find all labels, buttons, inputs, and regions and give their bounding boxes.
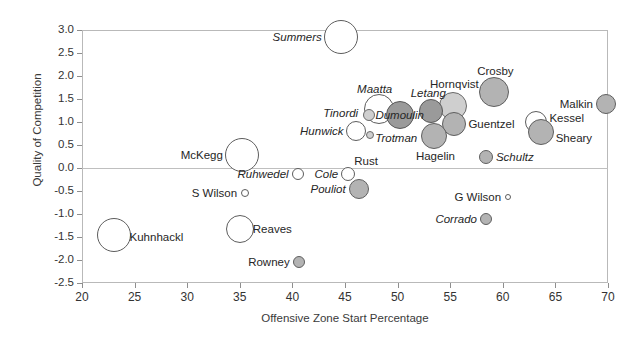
x-tick-mark xyxy=(82,283,83,288)
data-point-label: Reaves xyxy=(253,223,292,235)
y-tick-mark xyxy=(77,53,82,54)
x-tick-label: 70 xyxy=(601,290,614,304)
data-point-label: Schultz xyxy=(496,151,534,163)
plot-frame-right xyxy=(607,30,608,283)
data-point-bubble[interactable] xyxy=(366,131,374,139)
data-point-label: Sheary xyxy=(556,132,592,144)
data-point-bubble[interactable] xyxy=(528,119,554,145)
data-point-bubble[interactable] xyxy=(596,94,616,114)
y-tick-label: -1.5 xyxy=(34,230,74,242)
data-point-bubble[interactable] xyxy=(349,179,369,199)
data-point-label: McKegg xyxy=(181,149,223,161)
data-point-label: Trotman xyxy=(375,132,417,144)
x-tick-label: 40 xyxy=(286,290,299,304)
x-tick-label: 20 xyxy=(75,290,88,304)
data-point-bubble[interactable] xyxy=(346,121,366,141)
x-tick-mark xyxy=(450,283,451,288)
data-point-bubble[interactable] xyxy=(480,213,492,225)
x-tick-mark xyxy=(398,283,399,288)
x-axis-label: Offensive Zone Start Percentage xyxy=(82,312,608,324)
data-point-bubble[interactable] xyxy=(421,123,447,149)
scatter-chart: Quality of Competition Offensive Zone St… xyxy=(0,0,626,345)
data-point-label: Kessel xyxy=(549,112,584,124)
x-tick-label: 65 xyxy=(549,290,562,304)
y-tick-label: -2.0 xyxy=(34,253,74,265)
x-tick-mark xyxy=(345,283,346,288)
data-point-label: Hunwick xyxy=(300,125,343,137)
y-tick-label: 0.0 xyxy=(34,161,74,173)
data-point-bubble[interactable] xyxy=(363,109,375,121)
data-point-label: G Wilson xyxy=(454,191,501,203)
data-point-label: Dumoulin xyxy=(375,109,424,121)
data-point-label: Cole xyxy=(314,168,338,180)
x-tick-mark xyxy=(292,283,293,288)
data-point-label: Corrado xyxy=(435,213,477,225)
data-point-bubble[interactable] xyxy=(324,20,358,54)
data-point-bubble[interactable] xyxy=(341,167,355,181)
plot-area: 3.02.52.01.51.00.50.0-0.5-1.0-1.5-2.0-2.… xyxy=(82,30,608,283)
y-tick-mark xyxy=(77,191,82,192)
y-tick-label: 2.0 xyxy=(34,69,74,81)
x-tick-label: 45 xyxy=(338,290,351,304)
data-point-label: Kuhnhackl xyxy=(130,231,184,243)
data-point-bubble[interactable] xyxy=(226,215,254,243)
y-tick-mark xyxy=(77,99,82,100)
y-tick-label: -1.0 xyxy=(34,207,74,219)
data-point-bubble[interactable] xyxy=(505,194,511,200)
y-tick-label: 0.5 xyxy=(34,138,74,150)
data-point-bubble[interactable] xyxy=(293,256,305,268)
x-tick-label: 50 xyxy=(391,290,404,304)
data-point-bubble[interactable] xyxy=(479,150,493,164)
data-point-bubble[interactable] xyxy=(479,77,509,107)
y-tick-label: 3.0 xyxy=(34,23,74,35)
x-tick-label: 55 xyxy=(444,290,457,304)
data-point-bubble[interactable] xyxy=(292,168,304,180)
x-tick-label: 35 xyxy=(233,290,246,304)
data-point-label: Pouliot xyxy=(311,183,346,195)
x-tick-label: 60 xyxy=(496,290,509,304)
x-tick-mark xyxy=(187,283,188,288)
data-point-bubble[interactable] xyxy=(241,189,249,197)
data-point-label: Rust xyxy=(354,155,378,167)
x-tick-label: 30 xyxy=(181,290,194,304)
data-point-label: Summers xyxy=(273,31,322,43)
chart-title xyxy=(0,0,626,6)
x-tick-mark xyxy=(240,283,241,288)
y-tick-label: 2.5 xyxy=(34,46,74,58)
y-tick-mark xyxy=(77,145,82,146)
plot-frame-left xyxy=(82,30,83,283)
x-tick-mark xyxy=(503,283,504,288)
x-tick-label: 25 xyxy=(128,290,141,304)
y-tick-label: -2.5 xyxy=(34,276,74,288)
data-point-label: S Wilson xyxy=(192,187,237,199)
data-point-bubble[interactable] xyxy=(97,218,131,252)
y-tick-mark xyxy=(77,237,82,238)
y-tick-label: 1.5 xyxy=(34,92,74,104)
x-tick-mark xyxy=(135,283,136,288)
data-point-label: Hagelin xyxy=(416,150,455,162)
data-point-label: Tinordi xyxy=(323,107,358,119)
y-tick-mark xyxy=(77,30,82,31)
data-point-label: Letang xyxy=(411,87,446,99)
y-tick-label: 1.0 xyxy=(34,115,74,127)
x-tick-mark xyxy=(555,283,556,288)
y-axis-label: Quality of Competition xyxy=(31,30,43,230)
y-tick-mark xyxy=(77,214,82,215)
y-tick-mark xyxy=(77,122,82,123)
data-point-label: Maatta xyxy=(357,83,392,95)
y-tick-mark xyxy=(77,260,82,261)
data-point-label: Guentzel xyxy=(468,118,514,130)
data-point-label: Ruhwedel xyxy=(238,168,289,180)
data-point-label: Malkin xyxy=(560,98,593,110)
x-tick-mark xyxy=(608,283,609,288)
y-tick-label: -0.5 xyxy=(34,184,74,196)
data-point-label: Crosby xyxy=(477,65,513,77)
data-point-label: Rowney xyxy=(248,256,290,268)
y-tick-mark xyxy=(77,76,82,77)
